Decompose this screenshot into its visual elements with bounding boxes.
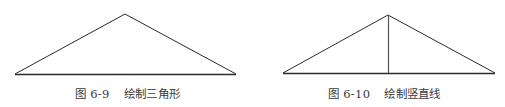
triangle-left-edge [283, 15, 388, 73]
figure-number: 图 6-9 [75, 87, 110, 101]
figure-caption-6-9: 图 6-9绘制三角形 [75, 85, 180, 101]
triangle-right-edge [388, 15, 495, 73]
figure-6-9-triangle [15, 14, 236, 75]
figure-title: 绘制竖直线 [384, 87, 441, 101]
triangle-left-edge [15, 14, 125, 74]
figure-caption-6-10: 图 6-10绘制竖直线 [328, 85, 441, 101]
triangle-right-edge [125, 14, 236, 74]
figure-number: 图 6-10 [328, 87, 370, 101]
figure-title: 绘制三角形 [124, 87, 181, 101]
figure-6-10-triangle [283, 15, 495, 74]
